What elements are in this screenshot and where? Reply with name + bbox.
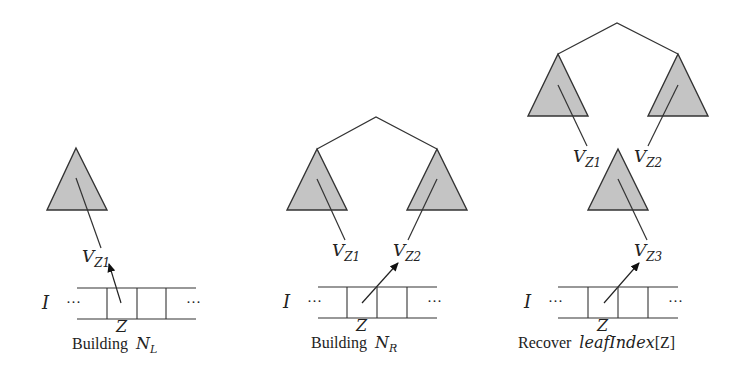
caption-recover-leafindex: Recover leafIndex[Z] — [518, 333, 675, 352]
node-label-vz1: VZ1 — [82, 246, 110, 270]
cell-label-z: Z — [355, 316, 368, 335]
index-array-i — [77, 288, 196, 319]
left-ellipsis: ··· — [307, 293, 322, 309]
panel-recover-leafindex: VZ1 VZ2 VZ3 I ··· ··· Z Recover leafInde… — [518, 23, 708, 352]
index-array-i — [318, 287, 437, 318]
caption-building-nr: Building NR — [311, 333, 397, 355]
array-label-i: I — [282, 291, 291, 312]
tree-construction-diagram: VZ1 I ··· ··· Z Building NL VZ1 VZ2 — [0, 0, 748, 377]
left-ellipsis: ··· — [548, 293, 563, 309]
node-label-vz3: VZ3 — [634, 240, 663, 264]
node-label-vz2: VZ2 — [634, 146, 662, 170]
right-ellipsis: ··· — [186, 294, 201, 310]
caption-building-nl: Building NL — [72, 334, 157, 356]
left-ellipsis: ··· — [66, 294, 81, 310]
node-label-vz1: VZ1 — [332, 240, 360, 264]
root-edges — [558, 23, 678, 54]
array-label-i: I — [41, 292, 50, 313]
pointer-arrow — [109, 264, 121, 303]
panel-building-nl: VZ1 I ··· ··· Z Building NL — [41, 148, 201, 356]
pointer-arrow — [604, 263, 639, 303]
array-label-i: I — [523, 291, 532, 312]
node-label-vz2: VZ2 — [393, 240, 421, 264]
right-ellipsis: ··· — [668, 293, 683, 309]
index-array-i — [558, 287, 678, 318]
cell-label-z: Z — [115, 317, 128, 336]
pointer-arrow — [362, 263, 398, 303]
node-label-vz1: VZ1 — [573, 146, 601, 170]
subtree-triangle-nl — [47, 148, 107, 210]
root-edges — [317, 117, 437, 149]
panel-building-nr: VZ1 VZ2 I ··· ··· Z Building NR — [282, 117, 467, 355]
right-ellipsis: ··· — [427, 293, 442, 309]
